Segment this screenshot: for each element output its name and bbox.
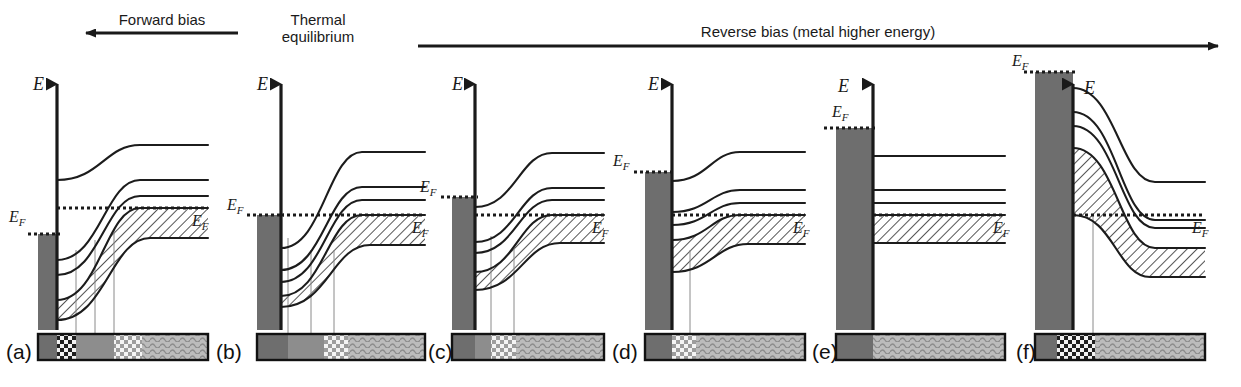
fermi-subscript: F [803,227,810,239]
occupied-band-region [57,208,208,320]
metal-block [38,234,57,330]
semiconductor-fermi-label-3: EF [793,219,810,239]
substrate-segment-checker-light-2 [491,334,516,360]
substrate-segment-wave-light-1 [873,334,1005,360]
energy-axis-label-4: E [838,76,849,97]
band-edge-mid-band-upper [672,190,805,212]
metal-fermi-label-0: EF [9,208,26,228]
substrate-segment-wave-light-2 [696,334,805,360]
fermi-subscript: F [1003,227,1010,239]
substrate-segment-checker-light-2 [324,334,348,360]
fermi-subscript: F [602,227,609,239]
substrate-segment-solid-mid-2 [76,334,114,360]
metal-block [1035,72,1073,330]
fermi-symbol: E [227,196,237,213]
substrate-segment-solid-dark-0 [38,334,57,360]
fermi-subscript: F [1022,60,1029,72]
band-diagram-figure: Forward biasReverse bias (metal higher e… [0,0,1241,387]
fermi-symbol: E [420,178,430,195]
panel-a [28,84,208,360]
substrate-segment-solid-dark-0 [836,334,873,360]
substrate-segment-solid-mid-1 [288,334,324,360]
metal-fermi-label-2: EF [420,178,437,198]
fermi-subscript: F [202,220,209,232]
occupied-band-region [475,215,604,290]
panel-d [634,84,805,360]
metal-block [836,128,873,330]
substrate-segment-checker-dark-1 [1057,334,1095,360]
substrate-segment-wave-light-3 [516,334,604,360]
energy-axis-label-1: E [257,74,268,95]
energy-axis-label-2: E [452,74,463,95]
substrate-segment-solid-dark-0 [645,334,672,360]
panel-b [247,84,425,360]
panel-tag-2: (c) [428,340,453,364]
panel-c [441,84,604,360]
occupied-band-region [873,215,1005,243]
substrate-segment-solid-dark-0 [257,334,288,360]
fermi-subscript: F [430,186,437,198]
substrate-segment-checker-light-1 [672,334,696,360]
substrate-segment-checker-dark-1 [57,334,76,360]
metal-fermi-label-4: EF [832,103,849,123]
fermi-subscript: F [19,216,26,228]
fermi-symbol: E [192,212,202,229]
metal-block [257,215,281,330]
band-edge-upper-band [672,152,805,181]
fermi-subscript: F [422,227,429,239]
energy-axis-label-0: E [33,74,44,95]
semiconductor-fermi-label-0: EF [192,212,209,232]
fermi-symbol: E [1192,219,1202,236]
substrate-segment-wave-light-4 [142,334,208,360]
fermi-symbol: E [613,152,623,169]
panel-f [1024,72,1205,360]
fermi-symbol: E [9,208,19,225]
substrate-segment-wave-light-3 [348,334,425,360]
fermi-symbol: E [993,219,1003,236]
substrate-segment-solid-dark-0 [452,334,475,360]
semiconductor-fermi-label-4: EF [993,219,1010,239]
fermi-symbol: E [1012,52,1022,69]
substrate-segment-checker-light-3 [114,334,142,360]
semiconductor-fermi-label-5: EF [1192,219,1209,239]
fermi-symbol: E [412,219,422,236]
fermi-symbol: E [793,219,803,236]
fermi-subscript: F [623,160,630,172]
panel-tag-4: (e) [812,340,838,364]
metal-fermi-label-1: EF [227,196,244,216]
metal-fermi-label-5: EF [1012,52,1029,72]
fermi-subscript: F [1202,227,1209,239]
band-edge-upper-band [475,153,604,207]
panel-tag-3: (d) [612,340,638,364]
fermi-subscript: F [842,111,849,123]
panel-tag-0: (a) [6,340,32,364]
semiconductor-fermi-label-2: EF [592,219,609,239]
band-edge-upper-band [57,145,208,180]
metal-fermi-label-3: EF [613,152,630,172]
panel-tag-5: (f) [1016,340,1036,364]
panel-e [824,84,1005,360]
fermi-subscript: F [237,204,244,216]
substrate-segment-wave-light-2 [1095,334,1205,360]
metal-block [645,172,672,330]
fermi-symbol: E [592,219,602,236]
diagram-canvas [0,0,1241,387]
substrate-segment-solid-dark-0 [1035,334,1057,360]
caption-label-thermal-equilibrium: Thermal equilibrium [148,12,488,46]
energy-axis-label-3: E [648,74,659,95]
panel-tag-1: (b) [216,340,242,364]
semiconductor-fermi-label-1: EF [412,219,429,239]
substrate-segment-solid-mid-1 [475,334,491,360]
energy-axis-label-5: E [1084,78,1095,99]
caption-label-reverse-bias: Reverse bias (metal higher energy) [648,24,988,41]
metal-block [452,197,475,330]
fermi-symbol: E [832,103,842,120]
